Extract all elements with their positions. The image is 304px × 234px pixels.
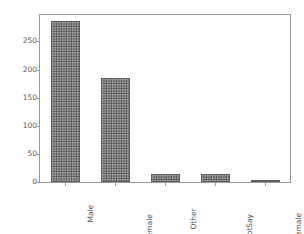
x-tick-label: Other [190,208,198,229]
y-tick-label: 200 [23,66,37,74]
x-tick-label-text: Other [190,208,198,229]
bar[interactable] [101,78,130,182]
x-tick-mark [165,182,166,186]
x-tick-label: Male [86,205,94,223]
x-tick-mark [215,182,216,186]
bar[interactable] [51,21,80,182]
figure-canvas: 050100150200250 MaleFemaleOtherNotSayfem… [0,0,304,234]
x-tick-label-text: Male [86,205,94,223]
bar[interactable] [151,174,180,182]
y-tick-label: 250 [23,38,37,46]
x-tick-label-text: NotSay [245,214,253,234]
x-tick-label: Female [146,214,154,234]
x-tick-label-text: female [294,213,302,234]
y-tick-label: 150 [23,94,37,102]
bar-slot [90,15,140,182]
bar[interactable] [201,174,230,182]
chart-axes: 050100150200250 MaleFemaleOtherNotSayfem… [39,14,291,183]
x-tick-mark [65,182,66,186]
bar-slot [140,15,190,182]
y-tick-label: 100 [23,122,37,130]
x-tick-mark [265,182,266,186]
bar-slot [40,15,90,182]
bar-slot [190,15,240,182]
y-tick-label: 0 [32,178,37,186]
x-tick-label: NotSay [245,214,253,234]
x-tick-label: female [294,213,302,234]
y-tick-label: 50 [27,150,37,158]
x-tick-label-text: Female [146,214,154,234]
x-tick-mark [115,182,116,186]
plot-area: 050100150200250 MaleFemaleOtherNotSayfem… [40,15,290,182]
bar-slot [240,15,290,182]
